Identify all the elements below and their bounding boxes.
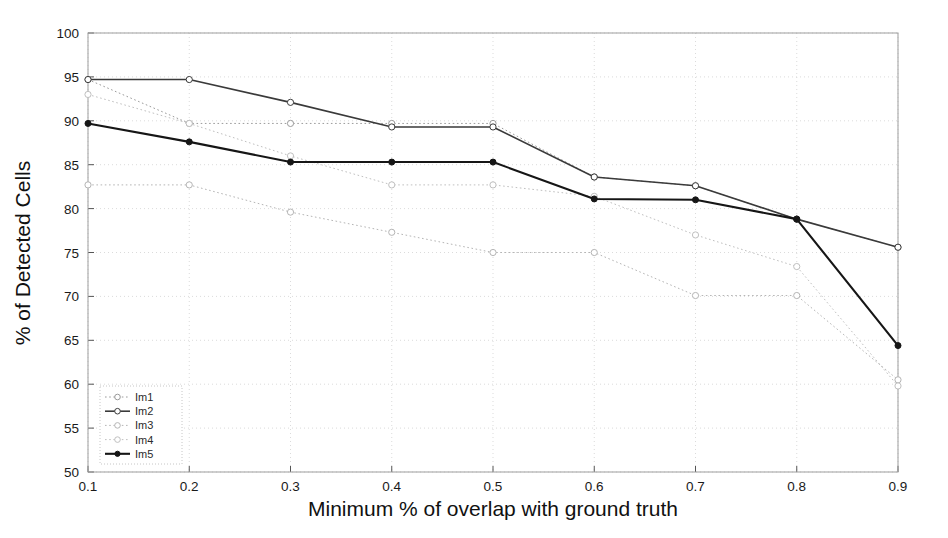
y-tick-80: 80 xyxy=(64,202,79,217)
legend-label-im2: Im2 xyxy=(135,405,153,417)
y-tick-65: 65 xyxy=(64,333,79,348)
data-series-layer xyxy=(85,76,901,389)
data-point xyxy=(287,153,293,159)
legend-label-im1: Im1 xyxy=(135,391,153,403)
data-point xyxy=(490,249,496,255)
y-tick-50: 50 xyxy=(64,465,79,480)
data-point xyxy=(186,139,192,145)
data-point xyxy=(389,182,395,188)
data-point xyxy=(693,197,699,203)
y-tick-55: 55 xyxy=(64,421,79,436)
data-point xyxy=(591,174,597,180)
data-point xyxy=(389,124,395,130)
x-tick-0.6: 0.6 xyxy=(585,479,604,494)
x-axis-title: Minimum % of overlap with ground truth xyxy=(308,497,678,520)
x-axis-tick-labels: 0.10.20.30.40.50.60.70.80.9 xyxy=(79,479,908,494)
y-tick-75: 75 xyxy=(64,246,79,261)
data-point xyxy=(288,159,294,165)
x-tick-0.2: 0.2 xyxy=(180,479,199,494)
data-point xyxy=(794,216,800,222)
y-tick-70: 70 xyxy=(64,289,79,304)
line-chart: 50556065707580859095100 0.10.20.30.40.50… xyxy=(0,0,948,538)
data-point xyxy=(85,182,91,188)
data-point xyxy=(85,91,91,97)
data-point xyxy=(895,383,901,389)
legend-label-im5: Im5 xyxy=(135,448,153,460)
chart-legend[interactable]: Im1Im2Im3Im4Im5 xyxy=(100,386,182,464)
series-im5 xyxy=(85,120,901,348)
x-tick-0.5: 0.5 xyxy=(484,479,503,494)
data-point xyxy=(186,120,192,126)
y-tick-85: 85 xyxy=(64,158,79,173)
legend-label-im4: Im4 xyxy=(135,434,153,446)
legend-label-im3: Im3 xyxy=(135,419,153,431)
y-tick-90: 90 xyxy=(64,114,79,129)
data-point xyxy=(287,120,293,126)
data-point xyxy=(490,159,496,165)
data-point xyxy=(389,159,395,165)
data-point xyxy=(186,182,192,188)
x-tick-0.1: 0.1 xyxy=(79,479,98,494)
y-tick-95: 95 xyxy=(64,70,79,85)
data-point xyxy=(692,232,698,238)
data-point xyxy=(287,209,293,215)
data-point xyxy=(794,292,800,298)
data-point xyxy=(794,263,800,269)
y-axis-title: % of Detected Cells xyxy=(11,161,34,345)
data-point xyxy=(895,377,901,383)
data-point xyxy=(85,120,91,126)
data-point xyxy=(692,183,698,189)
y-tick-100: 100 xyxy=(56,26,79,41)
series-im4 xyxy=(85,91,901,389)
data-point xyxy=(287,99,293,105)
x-tick-0.8: 0.8 xyxy=(787,479,806,494)
y-axis-tick-labels: 50556065707580859095100 xyxy=(56,26,79,480)
data-point xyxy=(895,244,901,250)
data-point xyxy=(895,343,901,349)
data-point xyxy=(389,229,395,235)
x-tick-0.4: 0.4 xyxy=(382,479,401,494)
data-point xyxy=(490,182,496,188)
data-point xyxy=(591,196,597,202)
data-point xyxy=(85,76,91,82)
data-point xyxy=(692,292,698,298)
data-point xyxy=(490,124,496,130)
data-point xyxy=(591,249,597,255)
series-im3 xyxy=(85,182,901,383)
y-tick-60: 60 xyxy=(64,377,79,392)
x-tick-0.9: 0.9 xyxy=(889,479,908,494)
x-tick-0.3: 0.3 xyxy=(281,479,300,494)
x-tick-0.7: 0.7 xyxy=(686,479,705,494)
data-point xyxy=(186,76,192,82)
chart-figure: 50556065707580859095100 0.10.20.30.40.50… xyxy=(0,0,948,538)
